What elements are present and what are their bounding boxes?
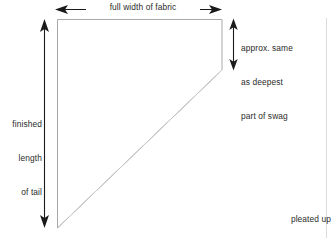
- fabric-piece-outline: [58, 20, 223, 229]
- label-approx-same-as-deepest-part-of-swag: approx. same as deepest part of swag: [241, 21, 331, 144]
- label-finished-length-line-3: of tail: [0, 187, 42, 198]
- swag-depth-dimension-arrow: [229, 19, 237, 71]
- label-finished-length-of-tail: finished length of tail: [0, 97, 42, 220]
- label-finished-length-line-1: finished: [0, 119, 42, 130]
- label-pleated-up-geometric-tail: pleated up geometric tail: [231, 192, 331, 238]
- label-full-width-of-fabric: full width of fabric: [86, 2, 200, 13]
- tail-cutting-diagram: full width of fabric finished length of …: [0, 0, 333, 238]
- label-finished-length-line-2: length: [0, 153, 42, 164]
- label-caption-line-1: pleated up: [231, 214, 331, 225]
- label-approx-line-1: approx. same: [241, 43, 331, 54]
- label-approx-line-3: part of swag: [241, 111, 331, 122]
- label-approx-line-2: as deepest: [241, 77, 331, 88]
